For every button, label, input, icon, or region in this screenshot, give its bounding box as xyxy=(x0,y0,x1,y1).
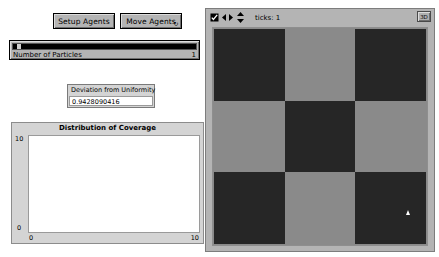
patch xyxy=(214,29,285,101)
patch-grid xyxy=(214,29,426,244)
number-of-particles-slider[interactable]: Number of Particles 1 xyxy=(9,40,200,60)
plot-y-max-tick: 10 xyxy=(15,135,23,143)
monitor-value: 0.9428090416 xyxy=(69,96,153,106)
slider-value: 1 xyxy=(192,51,196,59)
patch xyxy=(285,101,356,173)
setup-agents-button[interactable]: Setup Agents xyxy=(53,13,115,29)
patch xyxy=(355,29,426,101)
patch xyxy=(355,101,426,173)
setup-agents-label: Setup Agents xyxy=(58,17,110,26)
slider-thumb[interactable] xyxy=(17,44,21,49)
deviation-monitor: Deviation from Uniformity 0.9428090416 xyxy=(67,84,155,108)
view-toolbar: ticks: 1 xyxy=(207,10,433,25)
world-view-panel: ticks: 1 3D xyxy=(205,8,435,252)
three-d-toggle-button[interactable]: 3D xyxy=(417,11,431,22)
move-agents-button[interactable]: Move Agents ↻ xyxy=(120,13,182,29)
patch xyxy=(214,172,285,244)
monitor-title: Deviation from Uniformity xyxy=(71,86,155,94)
plot-title: Distribution of Coverage xyxy=(12,124,203,132)
slider-label: Number of Particles xyxy=(13,51,82,59)
plot-canvas xyxy=(28,135,200,233)
control-panel: Setup Agents Move Agents ↻ Number of Par… xyxy=(0,0,205,257)
patch xyxy=(355,172,426,244)
vertical-resize-icon[interactable] xyxy=(235,12,246,23)
turtle xyxy=(406,210,410,215)
slider-track[interactable] xyxy=(12,43,197,50)
patch xyxy=(285,29,356,101)
select-patches-icon[interactable] xyxy=(209,12,220,23)
plot-x-max-tick: 10 xyxy=(191,234,199,242)
plot-x-min-tick: 0 xyxy=(29,234,33,242)
ticks-counter: ticks: 1 xyxy=(255,14,280,22)
forever-loop-icon: ↻ xyxy=(173,21,179,27)
distribution-of-coverage-plot[interactable]: Distribution of Coverage 10 0 0 10 xyxy=(11,122,204,244)
world-view[interactable] xyxy=(212,27,428,246)
move-agents-label: Move Agents xyxy=(126,17,176,26)
horizontal-resize-icon[interactable] xyxy=(222,12,233,23)
patch xyxy=(214,101,285,173)
patch xyxy=(285,172,356,244)
three-d-label: 3D xyxy=(420,14,428,20)
plot-y-min-tick: 0 xyxy=(17,224,21,232)
